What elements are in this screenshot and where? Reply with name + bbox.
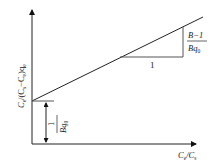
x-axis-label: Ce/Cs [178,150,196,161]
svg-text:1: 1 [46,122,56,126]
svg-text:Bq0: Bq0 [58,121,69,133]
slope-rise-numerator: B−1 [188,30,203,40]
y-axis-label: Ce/(Cs−Ce)qe [16,64,27,108]
slope-run-label: 1 [150,60,155,70]
slope-rise-denominator: Bq0 [188,43,200,54]
linear-fit-line [32,17,203,101]
svg-text:Ce/(Cs−Ce)qe: Ce/(Cs−Ce)qe [16,64,27,108]
intercept-label: 1 Bq0 [46,115,69,133]
diagram-canvas: 1 B−1 Bq0 1 Bq0 Ce/(Cs−Ce)qe Ce/Cs [0,0,216,166]
